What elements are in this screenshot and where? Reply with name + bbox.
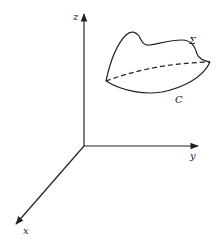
boundary-curve-c bbox=[106, 62, 210, 93]
y-axis-label: y bbox=[189, 150, 196, 161]
stokes-theorem-diagram: z y x Σ C bbox=[0, 0, 222, 243]
boundary-curve-back-dashed bbox=[106, 62, 210, 81]
curve-c-label: C bbox=[175, 94, 183, 105]
surface-sigma-label: Σ bbox=[188, 35, 197, 46]
x-axis-label: x bbox=[23, 225, 29, 236]
z-axis-label: z bbox=[72, 11, 79, 22]
x-axis bbox=[16, 146, 84, 224]
